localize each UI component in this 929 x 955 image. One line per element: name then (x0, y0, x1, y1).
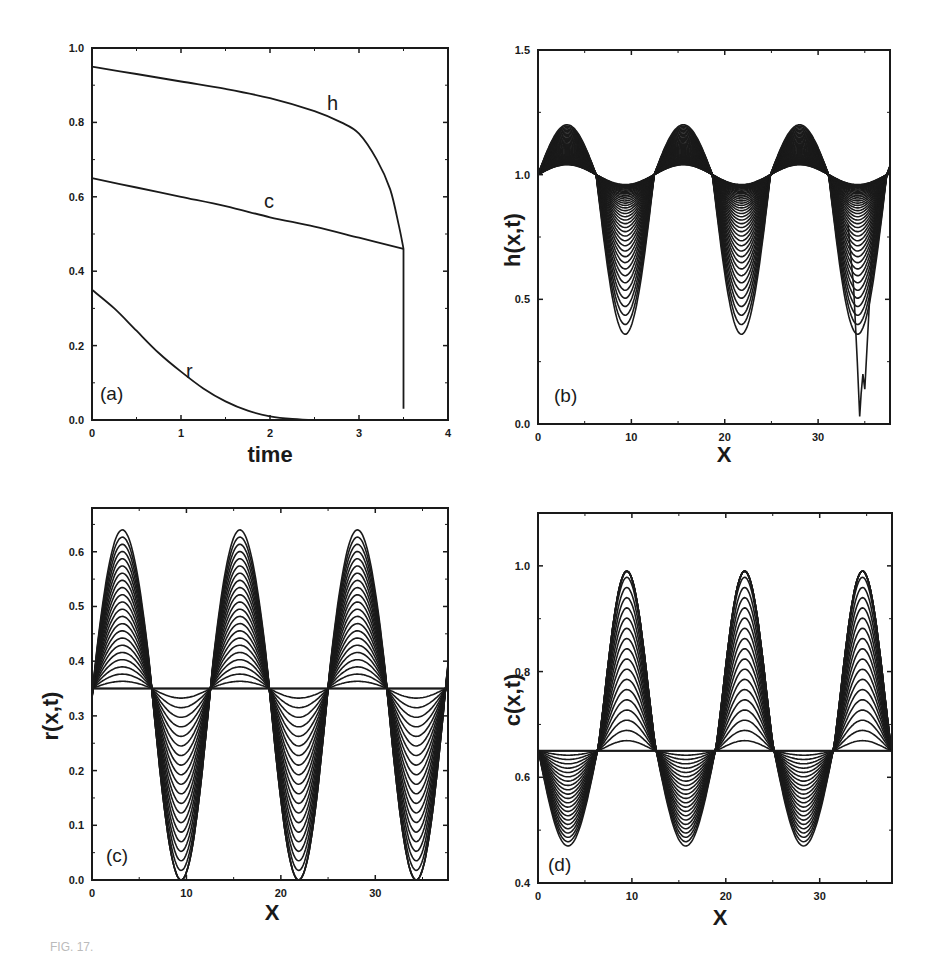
figure: 012340.00.20.40.60.81.0 h c r (a) time 0… (0, 0, 929, 955)
y-tick-label: 1.0 (515, 169, 530, 181)
y-tick-label: 0.6 (515, 771, 530, 783)
panel-a-time-series: 012340.00.20.40.60.81.0 h c r (a) time (69, 42, 452, 467)
x-tick-label: 30 (369, 887, 381, 899)
profile-curve (538, 571, 892, 846)
x-tick-label: 30 (814, 890, 826, 902)
curve-r (92, 290, 337, 420)
panel-a-xlabel: time (247, 442, 292, 467)
y-tick-label: 1.5 (515, 44, 530, 56)
panel-b-height-profiles: 01020300.00.51.01.5 (b) X h(x,t) (500, 44, 890, 467)
panel-d-ylabel: c(x,t) (500, 674, 525, 727)
y-tick-label: 0.2 (69, 340, 84, 352)
x-tick-label: 0 (89, 887, 95, 899)
y-tick-label: 0.4 (515, 877, 531, 889)
x-tick-label: 10 (625, 431, 637, 443)
panel-d-c-profiles: 01020300.40.60.81.0 (d) X c(x,t) (500, 513, 892, 930)
x-tick-label: 4 (445, 427, 452, 439)
x-tick-label: 2 (267, 427, 273, 439)
panel-c-curves (92, 530, 448, 880)
y-tick-label: 0.0 (515, 418, 530, 430)
panel-c-ylabel: r(x,t) (38, 692, 63, 741)
x-tick-label: 10 (626, 890, 638, 902)
y-tick-label: 0.0 (69, 414, 84, 426)
panel-a-ticks: 012340.00.20.40.60.81.0 (69, 42, 452, 439)
x-tick-label: 0 (535, 890, 541, 902)
y-tick-label: 0.8 (69, 116, 84, 128)
panel-a-frame (92, 48, 448, 420)
y-tick-label: 0.5 (515, 293, 530, 305)
y-tick-label: 0.1 (69, 819, 84, 831)
y-tick-label: 0.5 (69, 600, 84, 612)
x-tick-label: 0 (89, 427, 95, 439)
y-tick-label: 0.3 (69, 710, 84, 722)
curve-label-c: c (264, 190, 274, 212)
panel-b-label: (b) (554, 385, 577, 406)
y-tick-label: 1.0 (515, 560, 530, 572)
panel-d-curves (538, 571, 892, 846)
x-tick-label: 20 (275, 887, 287, 899)
panel-b-ylabel: h(x,t) (500, 213, 525, 267)
y-tick-label: 0.4 (69, 655, 85, 667)
x-tick-label: 3 (356, 427, 362, 439)
profile-curve (538, 571, 892, 829)
x-tick-label: 1 (178, 427, 184, 439)
panel-b-curves (538, 125, 890, 417)
y-tick-label: 0.6 (69, 546, 84, 558)
y-tick-label: 0.6 (69, 191, 84, 203)
panel-c-label: (c) (106, 845, 128, 866)
panel-c-xlabel: X (265, 900, 280, 925)
panel-b-xlabel: X (717, 442, 732, 467)
curve-c (92, 178, 404, 249)
curve-label-h: h (327, 92, 338, 114)
curve-label-r: r (186, 360, 193, 382)
x-tick-label: 30 (812, 431, 824, 443)
x-tick-label: 10 (180, 887, 192, 899)
figure-caption: FIG. 17. (50, 940, 93, 954)
x-tick-label: 0 (535, 431, 541, 443)
panel-b-ticks: 01020300.00.51.01.5 (515, 44, 890, 443)
x-tick-label: 20 (720, 890, 732, 902)
panel-a-curves (92, 67, 404, 420)
y-tick-label: 0.4 (69, 265, 85, 277)
y-tick-label: 1.0 (69, 42, 84, 54)
panel-d-label: (d) (548, 854, 571, 875)
panel-a-label: (a) (100, 383, 123, 404)
y-tick-label: 0.2 (69, 765, 84, 777)
panel-d-xlabel: X (713, 905, 728, 930)
y-tick-label: 0.0 (69, 874, 84, 886)
panel-c-r-profiles: 01020300.00.10.20.30.40.50.6 (c) X r(x,t… (38, 508, 448, 925)
panel-d-frame (538, 513, 892, 883)
